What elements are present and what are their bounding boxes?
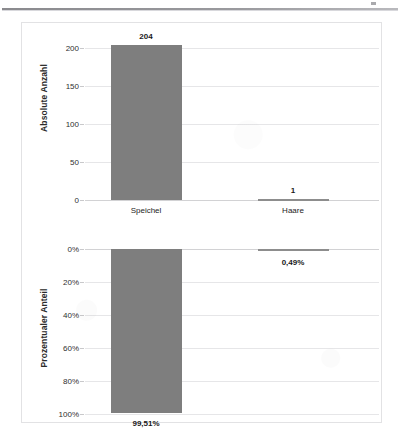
chart-absolute-counts: Absolute Anzahl 200 150 100 50 0	[22, 27, 383, 219]
tick-mark-40-percent	[80, 315, 84, 316]
tick-mark-100-percent	[80, 414, 84, 415]
y-tick-label-0: 0	[75, 196, 79, 205]
category-label-speichel-absolute: Speichel	[131, 206, 162, 215]
y-axis-title-percent: Prozentualer Anteil	[39, 253, 49, 403]
bar-speichel-absolute[interactable]	[111, 45, 182, 200]
tick-mark-60-percent	[80, 348, 84, 349]
value-label-haare-absolute: 1	[291, 186, 295, 195]
scan-speck	[371, 2, 376, 5]
chart-frame: Absolute Anzahl 200 150 100 50 0	[21, 22, 382, 423]
tick-mark-100	[80, 124, 84, 125]
bar-speichel-percent[interactable]	[111, 249, 182, 413]
tick-mark-50	[80, 162, 84, 163]
y-tick-label-200: 200	[66, 44, 79, 53]
value-label-speichel-percent: 99,51%	[132, 419, 159, 428]
tick-mark-150	[80, 86, 84, 87]
page-header-rule-shadow	[2, 10, 398, 11]
chart-percent-share: Prozentualer Anteil 0% 20% 40% 60% 80%	[22, 223, 383, 420]
y-tick-label-80-percent: 80%	[63, 377, 79, 386]
y-tick-label-100-percent: 100%	[59, 410, 79, 419]
gridline-0: 0	[85, 200, 379, 201]
gridline-100-percent: 100%	[85, 414, 379, 415]
plot-area-absolute: 200 150 100 50 0 204 1	[85, 48, 379, 208]
value-label-speichel-absolute: 204	[139, 32, 152, 41]
category-label-haare-absolute: Haare	[282, 206, 304, 215]
y-tick-label-100: 100	[66, 120, 79, 129]
bar-haare-absolute[interactable]	[258, 199, 329, 201]
tick-mark-0-percent	[80, 249, 84, 250]
value-label-haare-percent: 0,49%	[282, 258, 305, 267]
y-tick-label-40-percent: 40%	[63, 311, 79, 320]
plot-area-percent: 0% 20% 40% 60% 80% 100%	[85, 249, 379, 404]
tick-mark-80-percent	[80, 381, 84, 382]
y-tick-label-50: 50	[70, 158, 79, 167]
tick-mark-20-percent	[80, 282, 84, 283]
y-tick-label-20-percent: 20%	[63, 278, 79, 287]
tick-mark-0	[80, 200, 84, 201]
y-tick-label-150: 150	[66, 82, 79, 91]
y-axis-title-absolute: Absolute Anzahl	[39, 23, 49, 173]
tick-mark-200	[80, 48, 84, 49]
y-tick-label-0-percent: 0%	[67, 245, 79, 254]
y-tick-label-60-percent: 60%	[63, 344, 79, 353]
bar-haare-percent[interactable]	[258, 249, 329, 251]
